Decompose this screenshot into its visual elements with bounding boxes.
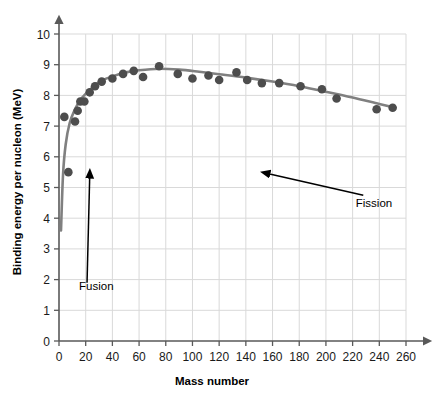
fusion-label: Fusion xyxy=(79,280,114,292)
data-point xyxy=(173,70,182,79)
y-tick-label: 8 xyxy=(43,89,50,103)
data-point xyxy=(97,77,106,86)
data-point xyxy=(275,79,284,88)
data-point xyxy=(243,76,252,85)
data-point xyxy=(215,76,224,85)
x-tick-label: 180 xyxy=(289,350,309,364)
y-tick-label: 10 xyxy=(37,28,51,42)
x-tick-label: 120 xyxy=(209,350,229,364)
binding-energy-chart: 020406080100120140160180200220240260 012… xyxy=(0,0,440,398)
y-tick-label: 3 xyxy=(43,242,50,256)
data-point xyxy=(80,97,89,106)
data-point xyxy=(372,105,381,114)
y-tick-label: 0 xyxy=(43,335,50,349)
x-tick-label: 0 xyxy=(56,350,63,364)
y-tick-label: 1 xyxy=(43,304,50,318)
y-tick-label: 4 xyxy=(43,212,50,226)
x-tick-label: 140 xyxy=(236,350,256,364)
x-tick-label: 60 xyxy=(132,350,146,364)
data-point xyxy=(188,74,197,83)
x-tick-label: 100 xyxy=(182,350,202,364)
data-point xyxy=(71,117,80,126)
data-point xyxy=(108,74,117,83)
y-tick-label: 6 xyxy=(43,150,50,164)
x-tick-label: 260 xyxy=(396,350,416,364)
data-point xyxy=(318,85,327,94)
x-tick-label: 220 xyxy=(343,350,363,364)
chart-canvas: 020406080100120140160180200220240260 012… xyxy=(0,0,440,398)
x-tick-label: 20 xyxy=(79,350,93,364)
data-point xyxy=(332,94,341,103)
x-tick-label: 40 xyxy=(106,350,120,364)
y-tick-label: 9 xyxy=(43,58,50,72)
data-point xyxy=(73,106,82,115)
data-point xyxy=(60,113,69,122)
x-tick-label: 240 xyxy=(369,350,389,364)
y-tick-label: 5 xyxy=(43,181,50,195)
data-point xyxy=(119,70,128,79)
x-tick-label: 200 xyxy=(316,350,336,364)
data-point xyxy=(155,62,164,71)
y-tick-label: 2 xyxy=(43,273,50,287)
data-point xyxy=(129,67,138,76)
x-tick-label: 160 xyxy=(263,350,283,364)
data-point xyxy=(388,103,397,112)
fission-label: Fission xyxy=(356,197,392,209)
data-point xyxy=(258,79,267,88)
x-axis-title: Mass number xyxy=(175,375,250,387)
y-tick-label: 7 xyxy=(43,120,50,134)
data-point xyxy=(232,68,241,77)
data-point xyxy=(64,168,73,177)
data-point xyxy=(139,73,148,82)
x-tick-label: 80 xyxy=(159,350,173,364)
data-point xyxy=(296,82,305,91)
data-point xyxy=(204,71,213,80)
y-axis-title: Binding energy per nucleon (MeV) xyxy=(11,89,23,276)
